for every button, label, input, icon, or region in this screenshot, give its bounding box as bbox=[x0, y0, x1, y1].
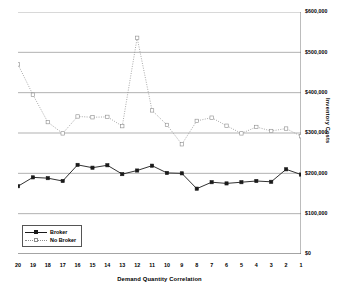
x-axis-tick-label: 19 bbox=[25, 262, 41, 268]
data-point-marker bbox=[136, 169, 139, 172]
data-point-marker bbox=[165, 123, 168, 126]
series-line-broker bbox=[18, 165, 301, 189]
data-point-marker bbox=[240, 132, 243, 135]
x-axis-tick-label: 13 bbox=[114, 262, 130, 268]
x-axis-tick-label: 11 bbox=[144, 262, 160, 268]
data-point-marker bbox=[225, 124, 228, 127]
x-axis-tick-label: 14 bbox=[99, 262, 115, 268]
x-axis-tick-label: 12 bbox=[129, 262, 145, 268]
data-point-marker bbox=[210, 116, 213, 119]
x-axis-tick-label: 16 bbox=[70, 262, 86, 268]
plot-svg bbox=[18, 12, 301, 254]
data-point-marker bbox=[195, 119, 198, 122]
data-point-marker bbox=[180, 143, 183, 146]
x-axis-tick-label: 18 bbox=[40, 262, 56, 268]
data-point-marker bbox=[284, 127, 287, 130]
data-point-marker bbox=[76, 115, 79, 118]
data-point-marker bbox=[121, 173, 124, 176]
data-point-marker bbox=[18, 185, 20, 188]
y-axis-tick-label: $200,000 bbox=[305, 171, 327, 176]
x-axis-tick-labels: 2019181716151413121110987654321 bbox=[18, 262, 301, 271]
data-point-marker bbox=[195, 187, 198, 190]
legend-swatch-broker-icon bbox=[25, 228, 47, 236]
legend-label-broker: Broker bbox=[50, 228, 67, 236]
x-axis-tick-label: 6 bbox=[219, 262, 235, 268]
legend-swatch-no-broker-icon bbox=[25, 236, 47, 244]
plot-area bbox=[18, 12, 301, 254]
y-axis-tick-label: $100,000 bbox=[305, 211, 327, 216]
data-point-marker bbox=[76, 163, 79, 166]
data-point-marker bbox=[165, 171, 168, 174]
data-point-marker bbox=[255, 179, 258, 182]
x-axis-tick-label: 15 bbox=[84, 262, 100, 268]
data-point-marker bbox=[46, 120, 49, 123]
legend-item-broker[interactable]: Broker bbox=[25, 228, 76, 236]
data-point-marker bbox=[285, 168, 288, 171]
inventory-costs-chart: $0$100,000$200,000$300,000$400,000$500,0… bbox=[0, 0, 349, 289]
y-axis-tick-label: $600,000 bbox=[305, 9, 327, 14]
x-axis-tick-label: 9 bbox=[174, 262, 190, 268]
x-axis-tick-label: 8 bbox=[189, 262, 205, 268]
data-point-marker bbox=[91, 116, 94, 119]
y-axis-tick-label: $0 bbox=[305, 251, 311, 256]
legend-label-no-broker: No Broker bbox=[50, 236, 76, 244]
data-point-marker bbox=[299, 135, 301, 138]
data-point-marker bbox=[46, 177, 49, 180]
x-axis-tick-label: 1 bbox=[293, 262, 309, 268]
data-point-marker bbox=[299, 173, 301, 176]
data-point-marker bbox=[121, 124, 124, 127]
data-point-marker bbox=[61, 179, 64, 182]
x-axis-tick-label: 3 bbox=[263, 262, 279, 268]
series-line-no-broker bbox=[18, 38, 301, 144]
data-point-marker bbox=[106, 164, 109, 167]
chart-legend: Broker No Broker bbox=[22, 225, 82, 247]
x-axis-title: Demand Quantity Correlation bbox=[18, 276, 301, 282]
y-axis-title: Inventory Costs bbox=[325, 98, 331, 168]
x-axis-tick-label: 10 bbox=[159, 262, 175, 268]
x-axis-tick-label: 2 bbox=[278, 262, 294, 268]
data-point-marker bbox=[180, 172, 183, 175]
data-point-marker bbox=[225, 182, 228, 185]
x-axis-tick-label: 7 bbox=[204, 262, 220, 268]
y-axis-tick-label: $500,000 bbox=[305, 50, 327, 55]
data-point-marker bbox=[150, 164, 153, 167]
data-point-marker bbox=[18, 63, 20, 66]
data-point-marker bbox=[255, 125, 258, 128]
y-axis-tick-label: $400,000 bbox=[305, 90, 327, 95]
data-point-marker bbox=[106, 115, 109, 118]
data-point-marker bbox=[270, 129, 273, 132]
x-axis-tick-label: 4 bbox=[248, 262, 264, 268]
data-point-marker bbox=[61, 132, 64, 135]
x-axis-tick-label: 17 bbox=[55, 262, 71, 268]
data-point-marker bbox=[135, 36, 138, 39]
data-point-marker bbox=[150, 109, 153, 112]
data-point-marker bbox=[31, 93, 34, 96]
data-point-marker bbox=[31, 176, 34, 179]
data-point-marker bbox=[270, 180, 273, 183]
x-axis-tick-label: 20 bbox=[10, 262, 26, 268]
x-axis-tick-label: 5 bbox=[233, 262, 249, 268]
data-point-marker bbox=[210, 181, 213, 184]
data-point-marker bbox=[91, 166, 94, 169]
legend-item-no-broker[interactable]: No Broker bbox=[25, 236, 76, 244]
data-point-marker bbox=[240, 181, 243, 184]
